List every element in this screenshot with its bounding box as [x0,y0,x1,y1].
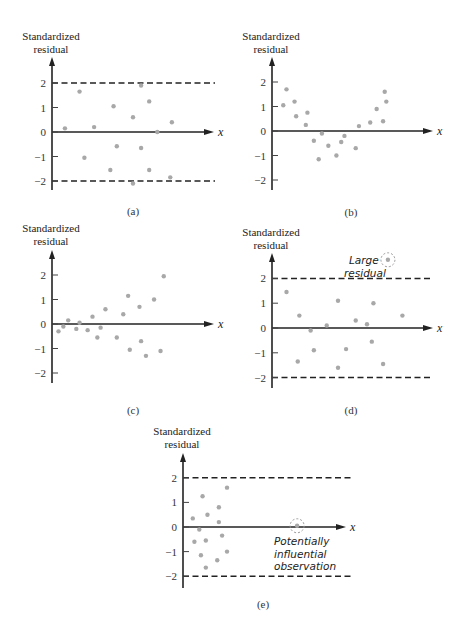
data-point [354,146,358,150]
y-axis-label: Standardized [242,226,300,238]
data-point [92,125,96,129]
y-axis-label-line2: residual [34,43,69,55]
data-point [137,305,141,309]
y-tick-label: −2 [34,367,46,379]
data-point [77,89,81,93]
y-tick-label: −1 [254,150,266,162]
data-point [381,362,385,366]
data-point [61,324,65,328]
data-point [200,494,204,498]
data-point [131,115,135,119]
data-point [365,322,369,326]
data-point [284,87,288,91]
y-axis-arrow-icon [180,453,186,462]
panel-caption: (e) [257,598,270,611]
y-axis-label: Standardized [22,30,80,42]
data-point [400,313,404,317]
y-axis-arrow-icon [269,253,275,262]
y-tick-label: 0 [41,318,47,330]
data-point [297,313,301,317]
panel-d: Standardizedresidualx210−1−2Largeresidua… [242,226,443,417]
y-axis-label-line2: residual [254,43,289,55]
data-point [336,365,340,369]
data-point [339,140,343,144]
data-point [147,168,151,172]
y-tick-label: 0 [261,125,267,137]
data-point [320,131,324,135]
y-tick-label: 2 [41,269,47,281]
y-tick-label: −1 [165,546,177,558]
y-tick-label: 1 [261,297,267,309]
highlighted-point [295,524,299,528]
y-tick-label: 0 [41,126,47,138]
data-point [144,354,148,358]
panel-caption: (d) [345,404,358,417]
data-point [357,124,361,128]
panel-a: Standardizedresidualx210−1−2(a) [22,30,224,218]
data-point [205,513,209,517]
y-axis-label-line2: residual [34,235,69,247]
data-point [103,307,107,311]
data-point [199,553,203,557]
data-point [316,157,320,161]
x-axis-label: x [436,321,443,335]
data-point [334,153,338,157]
data-point [354,318,358,322]
x-axis-arrow-icon [336,524,346,530]
x-axis-arrow-icon [204,129,214,135]
panel-caption: (c) [127,404,140,417]
y-tick-label: 1 [261,101,267,113]
y-tick-label: 2 [261,272,267,284]
data-point [384,99,388,103]
data-point [111,104,115,108]
data-point [155,130,159,134]
y-tick-label: 0 [172,521,178,533]
data-point [215,558,219,562]
data-point [121,312,125,316]
data-point [56,329,60,333]
data-point [304,123,308,127]
y-tick-label: 1 [172,496,178,508]
x-axis-arrow-icon [423,325,433,331]
y-tick-label: 1 [41,294,47,306]
data-point [217,505,221,509]
x-axis-arrow-icon [423,128,433,134]
data-point [170,120,174,124]
data-point [162,274,166,278]
panel-c: Standardizedresidualx210−1−2(c) [22,222,224,417]
data-point [374,107,378,111]
data-point [90,314,94,318]
y-tick-label: 2 [41,77,47,89]
data-point [63,126,67,130]
y-tick-label: −1 [34,151,46,163]
annotation-large: Large [349,254,379,266]
data-point [225,549,229,553]
data-point [294,114,298,118]
data-point [131,181,135,185]
data-point [225,485,229,489]
x-axis-label: x [349,520,356,534]
data-point [108,168,112,172]
data-point [296,359,300,363]
y-tick-label: −2 [34,175,46,187]
y-tick-label: −2 [165,570,177,582]
y-tick-label: 0 [261,322,267,334]
data-point [368,120,372,124]
y-tick-label: 2 [261,76,267,88]
y-tick-label: 1 [41,102,47,114]
y-axis-arrow-icon [49,57,55,66]
x-axis-label: x [217,125,224,139]
data-point [115,335,119,339]
data-point [284,290,288,294]
y-tick-label: −1 [254,347,266,359]
data-point [371,301,375,305]
y-axis-arrow-icon [269,57,275,66]
data-point [220,533,224,537]
y-axis-label: Standardized [153,425,211,437]
x-axis-label: x [217,317,224,331]
data-point [305,110,309,114]
data-point [139,146,143,150]
data-point [312,139,316,143]
annotation-residual: residual [344,267,386,279]
data-point [147,99,151,103]
